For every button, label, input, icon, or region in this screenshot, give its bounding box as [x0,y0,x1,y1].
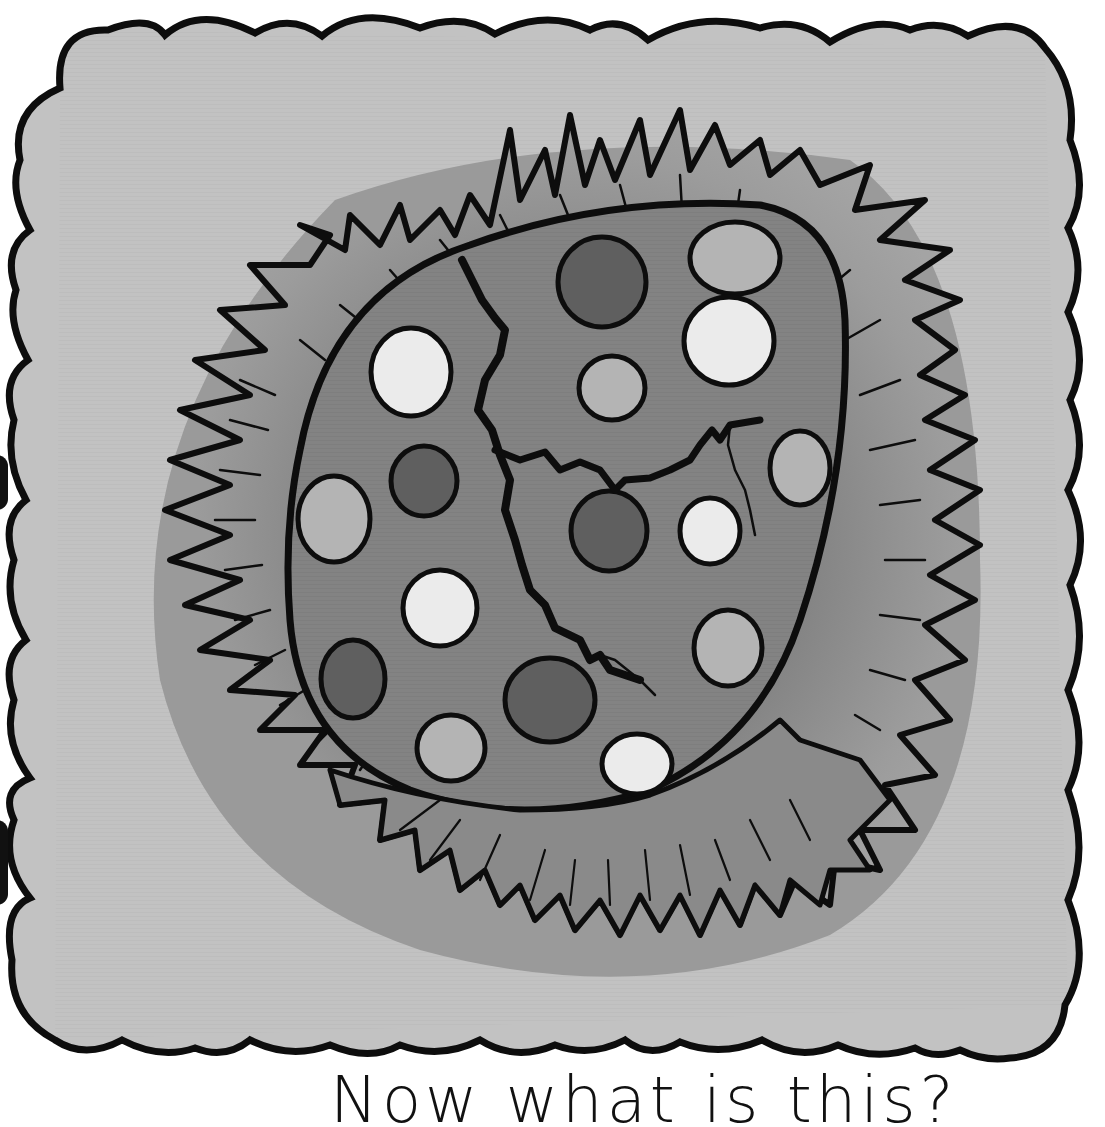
egg-spot-light [684,297,774,385]
egg-spot-light [371,328,451,416]
egg-spot-dark [321,640,385,718]
egg-spot-light [680,498,740,564]
egg-spot-dark [505,658,595,742]
egg-spot-dark [571,491,647,571]
egg-spot-light [602,734,672,794]
egg-spot-medium [417,715,485,781]
egg-spot-dark [558,237,646,327]
page-edge-mark [0,455,8,510]
egg-spot-medium [694,610,762,686]
page-edge-mark [0,820,8,905]
egg-spot-light [403,570,477,646]
egg-spot-medium [298,476,370,562]
egg-spot-medium [690,222,780,294]
page-caption: Now what is this? [330,1068,958,1127]
egg-spot-medium [579,356,645,420]
egg-spot-dark [391,446,457,516]
egg-spot-medium [770,431,830,505]
